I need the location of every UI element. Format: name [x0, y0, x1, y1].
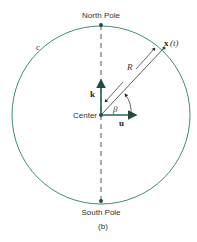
- x-label: x: [164, 38, 169, 48]
- south-pole-label: South Pole: [81, 208, 121, 217]
- r-dimension-upper: [136, 48, 155, 69]
- radius-line: [101, 48, 164, 115]
- sphere-diagram: North Pole South Pole Center (b) c R β k…: [0, 0, 197, 242]
- beta-label: β: [112, 104, 118, 114]
- caption-label: (b): [98, 222, 108, 231]
- curve-label: c: [36, 42, 40, 52]
- x-arg-label: (t): [170, 38, 179, 48]
- radius-label: R: [126, 62, 133, 72]
- r-dimension-lower: [105, 82, 123, 102]
- k-label: k: [90, 89, 95, 99]
- south-pole-point: [99, 199, 103, 203]
- north-pole-label: North Pole: [82, 11, 120, 20]
- center-label: Center: [73, 111, 97, 120]
- north-pole-point: [99, 23, 103, 27]
- beta-arc: [125, 94, 131, 115]
- u-label: u: [119, 118, 124, 128]
